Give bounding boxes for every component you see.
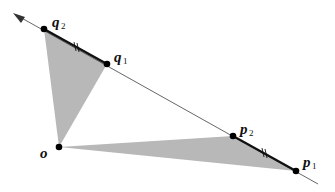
label-p2-sub: 2 — [249, 128, 254, 138]
label-q1-sub: 1 — [123, 56, 128, 66]
triangle-o-p2-p1 — [59, 136, 296, 171]
label-p2: p — [238, 121, 248, 137]
point-p1 — [293, 168, 300, 175]
label-q1: q — [114, 49, 122, 65]
arrowhead-icon — [13, 13, 25, 23]
point-q2 — [41, 26, 48, 33]
label-p1-sub: 1 — [312, 161, 317, 171]
label-o: o — [40, 145, 48, 161]
point-o — [56, 144, 63, 151]
diagram-canvas: o q 2 q 1 p 2 p 1 — [0, 0, 335, 192]
label-q2-sub: 2 — [61, 21, 66, 31]
point-p2 — [230, 133, 237, 140]
point-q1 — [104, 61, 111, 68]
label-q2: q — [52, 14, 60, 30]
label-p1: p — [301, 154, 311, 170]
